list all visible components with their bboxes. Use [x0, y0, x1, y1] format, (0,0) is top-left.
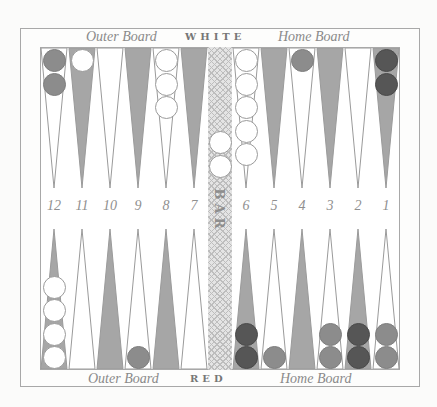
bottom-outer-board-label: Outer Board — [88, 370, 159, 388]
top-point-10[interactable] — [96, 48, 124, 188]
red-checker[interactable] — [235, 346, 258, 369]
bottom-point-10[interactable] — [96, 229, 124, 369]
point-number-5: 5 — [260, 198, 288, 214]
red-checker[interactable] — [235, 323, 258, 346]
red-checker[interactable] — [375, 346, 398, 369]
white-checker[interactable] — [43, 323, 66, 346]
white-player-label: WHITE — [185, 28, 245, 46]
white-checker[interactable] — [235, 143, 258, 166]
bar-label: BAR — [213, 188, 228, 232]
point-number-9: 9 — [124, 198, 152, 214]
white-checker[interactable] — [235, 96, 258, 119]
point-number-12: 12 — [40, 198, 68, 214]
point-number-8: 8 — [152, 198, 180, 214]
white-checker[interactable] — [235, 120, 258, 143]
top-point-7[interactable] — [180, 48, 208, 188]
top-home-board-label: Home Board — [278, 28, 349, 46]
top-point-9[interactable] — [124, 48, 152, 188]
point-number-11: 11 — [68, 198, 96, 214]
red-checker[interactable] — [263, 346, 286, 369]
red-checker[interactable] — [43, 73, 66, 96]
point-number-1: 1 — [372, 198, 400, 214]
point-number-6: 6 — [232, 198, 260, 214]
red-player-label: RED — [190, 370, 227, 388]
red-checker[interactable] — [319, 346, 342, 369]
bottom-point-7[interactable] — [180, 229, 208, 369]
white-checker-on-bar[interactable] — [209, 131, 232, 154]
white-checker[interactable] — [155, 49, 178, 72]
point-number-4: 4 — [288, 198, 316, 214]
point-number-7: 7 — [180, 198, 208, 214]
top-outer-board-label: Outer Board — [86, 28, 157, 46]
white-checker[interactable] — [43, 346, 66, 369]
bar-label-wrap: BAR — [208, 182, 232, 238]
white-checker[interactable] — [71, 49, 94, 72]
white-checker[interactable] — [155, 73, 178, 96]
top-point-2[interactable] — [344, 48, 372, 188]
top-point-3[interactable] — [316, 48, 344, 188]
red-checker[interactable] — [127, 346, 150, 369]
red-checker[interactable] — [291, 49, 314, 72]
point-number-2: 2 — [344, 198, 372, 214]
red-checker[interactable] — [375, 49, 398, 72]
white-checker[interactable] — [235, 49, 258, 72]
bottom-point-11[interactable] — [68, 229, 96, 369]
white-checker[interactable] — [235, 73, 258, 96]
point-number-10: 10 — [96, 198, 124, 214]
white-checker-on-bar[interactable] — [209, 155, 232, 178]
red-checker[interactable] — [375, 323, 398, 346]
top-point-5[interactable] — [260, 48, 288, 188]
red-checker[interactable] — [43, 49, 66, 72]
red-checker[interactable] — [347, 323, 370, 346]
point-number-3: 3 — [316, 198, 344, 214]
red-checker[interactable] — [347, 346, 370, 369]
bottom-point-4[interactable] — [288, 229, 316, 369]
bottom-home-board-label: Home Board — [280, 370, 351, 388]
bottom-point-8[interactable] — [152, 229, 180, 369]
red-checker[interactable] — [375, 73, 398, 96]
red-checker[interactable] — [319, 323, 342, 346]
white-checker[interactable] — [155, 96, 178, 119]
white-checker[interactable] — [43, 276, 66, 299]
white-checker[interactable] — [43, 299, 66, 322]
